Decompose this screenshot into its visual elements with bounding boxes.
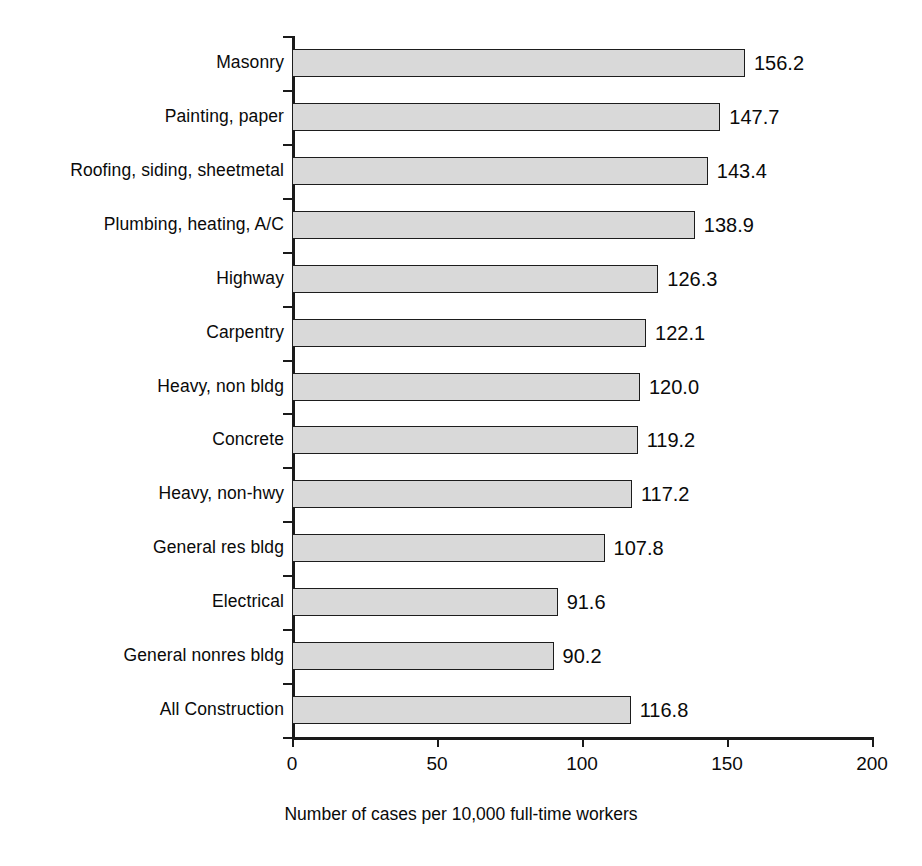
bar [292, 211, 695, 239]
x-axis-tick [872, 737, 874, 747]
plot-area: 156.2147.7143.4138.9126.3122.1120.0119.2… [292, 36, 892, 737]
bar [292, 588, 558, 616]
category-label: Roofing, siding, sheetmetal [70, 162, 284, 180]
bar-value-label: 116.8 [640, 700, 689, 720]
bar-value-label: 120.0 [649, 377, 699, 397]
bar-value-label: 147.7 [729, 107, 779, 127]
bar-value-label: 143.4 [717, 161, 767, 181]
bar [292, 49, 745, 77]
category-label: Heavy, non-hwy [158, 485, 284, 503]
x-axis-tick [437, 737, 439, 747]
bar-value-label: 156.2 [754, 53, 804, 73]
bar-chart: MasonryPainting, paperRoofing, siding, s… [0, 0, 922, 866]
bar [292, 319, 646, 347]
x-axis-tick [582, 737, 584, 747]
category-label: Painting, paper [165, 108, 284, 126]
y-axis-tick [283, 737, 292, 739]
y-axis-tick [283, 629, 292, 631]
y-axis-tick [283, 575, 292, 577]
y-axis-tick [283, 306, 292, 308]
y-axis-tick [283, 90, 292, 92]
category-label: Electrical [212, 593, 284, 611]
x-axis-tick-label: 50 [426, 754, 447, 773]
category-label: All Construction [160, 701, 284, 719]
category-label: Highway [216, 270, 284, 288]
bar-value-label: 138.9 [704, 215, 754, 235]
bar-value-label: 91.6 [567, 592, 606, 612]
bar [292, 103, 720, 131]
x-axis-title: Number of cases per 10,000 full-time wor… [0, 806, 922, 824]
y-axis-tick [283, 683, 292, 685]
bar-value-label: 117.2 [641, 484, 690, 504]
bar [292, 157, 708, 185]
category-label: Plumbing, heating, A/C [104, 216, 284, 234]
category-label: Heavy, non bldg [157, 378, 284, 396]
category-label: General res bldg [153, 539, 284, 557]
y-axis-tick [283, 198, 292, 200]
y-axis-tick [283, 467, 292, 469]
category-axis-labels: MasonryPainting, paperRoofing, siding, s… [0, 0, 284, 866]
bar-value-label: 122.1 [655, 323, 705, 343]
bar-value-label: 126.3 [667, 269, 717, 289]
y-axis-tick [283, 521, 292, 523]
x-axis-tick-label: 0 [287, 754, 298, 773]
bar-value-label: 119.2 [647, 430, 696, 450]
bar [292, 265, 658, 293]
bar [292, 373, 640, 401]
y-axis-tick [283, 252, 292, 254]
bar-value-label: 107.8 [614, 538, 664, 558]
bar [292, 642, 554, 670]
x-axis-tick-label: 100 [566, 754, 598, 773]
category-label: Masonry [216, 54, 284, 72]
x-axis-tick-label: 150 [711, 754, 743, 773]
category-label: General nonres bldg [124, 647, 284, 665]
y-axis-tick [283, 413, 292, 415]
x-axis-tick [292, 737, 294, 747]
bar [292, 696, 631, 724]
bar [292, 426, 638, 454]
bar [292, 534, 605, 562]
x-axis-tick [727, 737, 729, 747]
category-label: Carpentry [206, 324, 284, 342]
category-label: Concrete [212, 431, 284, 449]
y-axis-tick [283, 360, 292, 362]
bar-value-label: 90.2 [563, 646, 602, 666]
y-axis-tick [283, 144, 292, 146]
x-axis-tick-label: 200 [856, 754, 888, 773]
bar [292, 480, 632, 508]
y-axis-tick [283, 36, 292, 38]
